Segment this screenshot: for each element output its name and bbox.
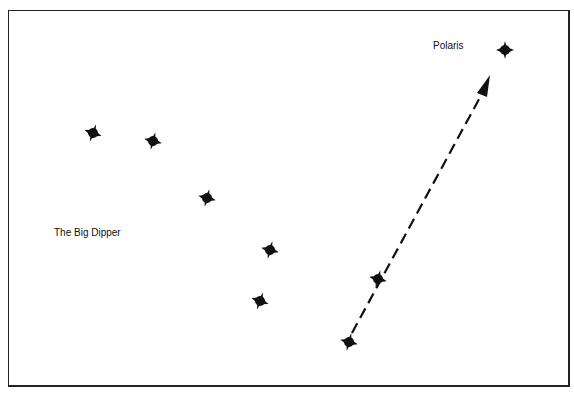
polaris-label: Polaris: [433, 40, 464, 51]
pointer-star-merak: [338, 331, 360, 353]
dipper-star-1: [81, 121, 104, 144]
pointer-arrow-line: [352, 90, 484, 333]
arrow-head-icon: [477, 75, 490, 97]
dipper-star-3: [196, 187, 218, 209]
polaris-star: [496, 41, 514, 59]
big-dipper-label: The Big Dipper: [54, 227, 121, 238]
dipper-star-4: [259, 239, 281, 261]
star-diagram: [0, 0, 574, 394]
dipper-star-2: [142, 130, 164, 152]
dipper-star-5: [248, 289, 271, 312]
